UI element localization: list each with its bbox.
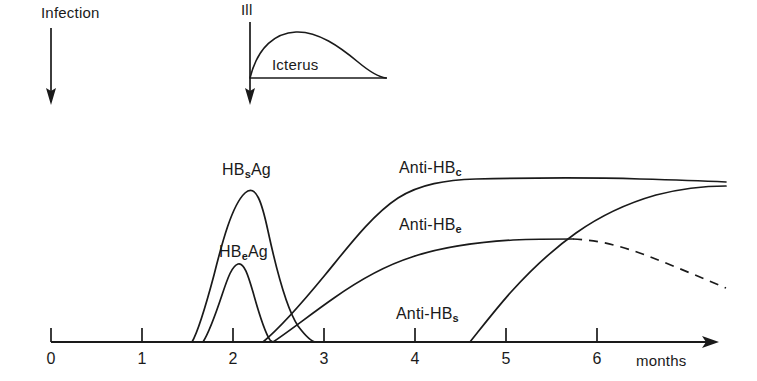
x-tick-label-5: 5 <box>493 350 519 368</box>
hbeag-label-tail: Ag <box>248 243 268 260</box>
curve-hbsag <box>192 190 316 342</box>
x-tick-label-4: 4 <box>402 350 428 368</box>
x-tick-label-2: 2 <box>220 350 246 368</box>
hbeag-label: HBeAg <box>219 243 268 261</box>
anti-hbc-label: Anti-HBc <box>399 159 462 177</box>
x-tick-label-6: 6 <box>584 350 610 368</box>
curve-anti-hbe-projected <box>573 239 726 288</box>
anti-hbe-label-subscript: e <box>456 223 462 235</box>
x-tick-label-3: 3 <box>311 350 337 368</box>
x-tick-label-1: 1 <box>129 350 155 368</box>
icterus-label: Icterus <box>272 56 318 73</box>
anti-hbe-label-base: Anti-HB <box>399 216 456 233</box>
infection-label: Infection <box>41 4 100 21</box>
anti-hbc-label-subscript: c <box>456 166 462 178</box>
x-axis <box>51 328 719 348</box>
hbsag-label-subscript: s <box>245 168 251 180</box>
icterus-curve <box>250 32 387 78</box>
hepatitis-b-serology-figure: Infection Ill Icterus HBsAg HBeAg Anti-H… <box>0 0 757 381</box>
anti-hbe-label: Anti-HBe <box>399 216 462 234</box>
curve-anti-hbs <box>470 186 726 342</box>
illness-label: Ill <box>241 1 252 18</box>
x-axis-unit-label: months <box>636 352 686 369</box>
hbeag-label-base: HB <box>219 243 242 260</box>
hbsag-label: HBsAg <box>222 161 271 179</box>
chart-canvas <box>0 0 757 381</box>
illness-arrow-icon <box>245 22 255 105</box>
anti-hbs-label: Anti-HBs <box>396 305 459 323</box>
anti-hbs-label-subscript: s <box>453 312 459 324</box>
infection-arrow-icon <box>46 28 56 105</box>
hbsag-label-base: HB <box>222 161 245 178</box>
curve-anti-hbe <box>273 239 573 342</box>
anti-hbc-label-base: Anti-HB <box>399 159 456 176</box>
hbeag-label-subscript: e <box>242 250 248 262</box>
x-tick-label-0: 0 <box>38 350 64 368</box>
hbsag-label-tail: Ag <box>251 161 271 178</box>
anti-hbs-label-base: Anti-HB <box>396 305 453 322</box>
